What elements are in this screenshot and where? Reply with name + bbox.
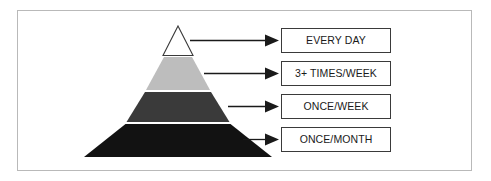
label-box-three-plus-times-week: 3+ TIMES/WEEK [281, 61, 391, 86]
pyramid-diagram [0, 0, 491, 181]
label-text-once-month: ONCE/MONTH [300, 134, 373, 145]
label-box-every-day: EVERY DAY [281, 28, 391, 53]
pyramid-segment-third [127, 92, 230, 122]
arrow-once-week [228, 101, 279, 113]
arrow-every-day [190, 35, 279, 47]
arrow-three-plus-times-week [204, 68, 279, 80]
figure-root: EVERY DAY 3+ TIMES/WEEK ONCE/WEEK ONCE/M… [0, 0, 491, 181]
label-text-every-day: EVERY DAY [306, 35, 366, 46]
label-text-once-week: ONCE/WEEK [303, 101, 368, 112]
label-text-three-plus-times-week: 3+ TIMES/WEEK [295, 68, 377, 79]
label-box-once-week: ONCE/WEEK [281, 94, 391, 119]
pyramid-segment-top [163, 26, 193, 56]
label-box-once-month: ONCE/MONTH [281, 127, 391, 152]
pyramid-segment-second [146, 57, 210, 90]
pyramid-segment-bottom [84, 124, 272, 157]
